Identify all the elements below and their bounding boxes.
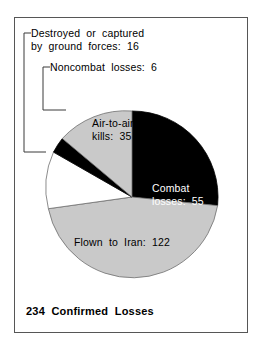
label-combat-losses: Combat losses: 55	[152, 182, 204, 207]
label-total-confirmed-losses: 234 Confirmed Losses	[26, 305, 154, 318]
label-destroyed-or-captured: Destroyed or captured by ground forces: …	[31, 27, 144, 52]
label-air-to-air-kills: Air-to-air kills: 35	[92, 117, 134, 142]
pie-chart-figure: Destroyed or captured by ground forces: …	[0, 0, 262, 350]
label-flown-to-iran: Flown to Iran: 122	[74, 236, 170, 249]
label-noncombat-losses: Noncombat losses: 6	[50, 61, 157, 74]
pie-chart-graphic	[0, 0, 262, 350]
